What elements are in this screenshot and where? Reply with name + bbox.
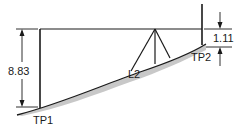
ground-shading (17, 44, 206, 116)
tp1-label: TP1 (33, 114, 53, 126)
ground-line (17, 44, 206, 115)
tp2-label: TP2 (191, 51, 211, 63)
l2-label: L2 (128, 68, 140, 80)
leveling-diagram: 8.83 1.11 TP1 L2 TP2 (0, 0, 248, 130)
backsight-label: 8.83 (8, 65, 29, 77)
foresight-label: 1.11 (213, 32, 234, 44)
